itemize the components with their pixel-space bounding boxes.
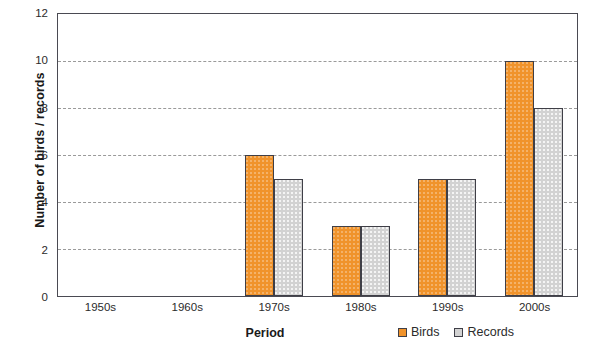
- x-axis-tick-labels: 1950s1960s1970s1980s1990s2000s: [57, 301, 578, 321]
- legend-item-records[interactable]: Records: [454, 325, 514, 339]
- bar-birds-1990s[interactable]: [418, 179, 447, 297]
- y-tick-label: 0: [2, 291, 48, 303]
- bar-group: [231, 14, 318, 296]
- bar-birds-1980s[interactable]: [332, 226, 361, 297]
- y-tick-label: 6: [2, 149, 48, 161]
- bar-birds-1970s[interactable]: [245, 155, 274, 296]
- legend-item-birds[interactable]: Birds: [398, 325, 439, 339]
- bar-chart-figure: Number of birds / records 12 10 8 6 4 2 …: [0, 0, 592, 351]
- x-tick-label: 1970s: [231, 301, 318, 321]
- y-tick-label: 2: [2, 244, 48, 256]
- x-axis-title: Period: [150, 326, 380, 340]
- x-tick-label: 1980s: [317, 301, 404, 321]
- plot-area: [57, 13, 578, 297]
- bar-records-1980s[interactable]: [361, 226, 390, 297]
- bar-group: [491, 14, 578, 296]
- bar-group: [145, 14, 232, 296]
- bar-group: [58, 14, 145, 296]
- x-tick-label: 1950s: [57, 301, 144, 321]
- bar-birds-2000s[interactable]: [505, 61, 534, 296]
- y-axis-tick-labels: 12 10 8 6 4 2 0: [0, 13, 48, 297]
- y-tick-label: 12: [2, 7, 48, 19]
- bar-group: [318, 14, 405, 296]
- legend: Birds Records: [398, 325, 514, 339]
- bar-groups: [58, 14, 577, 296]
- legend-swatch-birds: [398, 328, 407, 337]
- bar-group: [404, 14, 491, 296]
- y-tick-label: 10: [2, 54, 48, 66]
- y-tick-label: 4: [2, 196, 48, 208]
- x-tick-label: 2000s: [491, 301, 578, 321]
- y-tick-label: 8: [2, 102, 48, 114]
- legend-label-birds: Birds: [411, 325, 439, 339]
- x-tick-label: 1990s: [404, 301, 491, 321]
- legend-swatch-records: [454, 328, 463, 337]
- bar-records-2000s[interactable]: [534, 108, 563, 296]
- x-tick-label: 1960s: [144, 301, 231, 321]
- bar-records-1990s[interactable]: [447, 179, 476, 297]
- legend-label-records: Records: [467, 325, 514, 339]
- bar-records-1970s[interactable]: [274, 179, 303, 297]
